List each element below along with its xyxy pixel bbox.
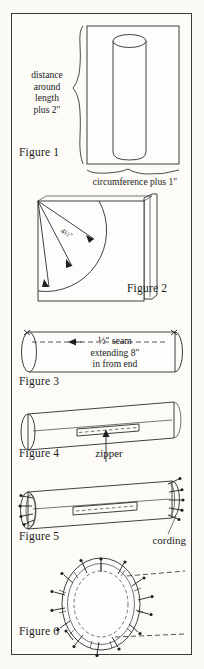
figure-6-drawing xyxy=(0,552,204,667)
callout-line-length: length xyxy=(16,92,78,104)
callout-line-around: around xyxy=(16,81,78,93)
figure-3-label: Figure 3 xyxy=(19,375,59,387)
figure-1-bottom-callout: circumference plus 1″ xyxy=(76,176,194,188)
seam-line-2: extending 8″ xyxy=(78,347,152,359)
callout-line-distance: distance xyxy=(16,69,78,81)
figure-1-label: Figure 1 xyxy=(19,146,59,158)
figure-6-label: Figure 6 xyxy=(19,625,59,637)
seam-line-3: in from end xyxy=(78,358,152,370)
figure-5-label: Figure 5 xyxy=(19,530,59,542)
diagram-page: distance around length plus 2″ Figure 1 … xyxy=(0,0,204,669)
figure-2-drawing: 4½″ xyxy=(0,192,204,322)
figure-4-label: Figure 4 xyxy=(19,447,59,459)
figure-4-drawing xyxy=(0,396,204,471)
figure-2-label: Figure 2 xyxy=(127,282,167,294)
figure-1-left-callout: distance around length plus 2″ xyxy=(16,69,78,115)
figure-4-zipper-callout: zipper xyxy=(86,448,132,460)
figure-5-cording-callout: cording xyxy=(118,535,186,547)
figure-3-seam-callout: ½″ seam extending 8″ in from end xyxy=(78,335,152,370)
seam-line-1: ½″ seam xyxy=(78,335,152,347)
callout-line-plus2: plus 2″ xyxy=(16,104,78,116)
